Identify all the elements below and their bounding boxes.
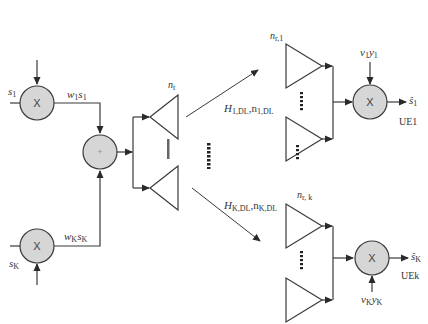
ellipsis-markers xyxy=(167,92,303,269)
input-label-s1: s1 xyxy=(8,86,16,99)
ue-label-ue1: UE1 xyxy=(399,117,417,127)
channel-label-1: H1,DL,n1,DL xyxy=(224,103,274,116)
multiply-symbol-rx-1: X xyxy=(366,97,373,108)
multiply-symbol-tx-1: X xyxy=(33,98,40,109)
sum-node xyxy=(83,135,132,169)
channel-label-k: HK,DL,nK,DL xyxy=(224,200,277,213)
weight-label-v1y1: v1y1 xyxy=(360,47,378,60)
tx-antenna-label-nt: nt xyxy=(168,80,175,92)
mult-rx-k xyxy=(355,241,408,292)
multiply-symbol-tx-k: X xyxy=(33,241,40,252)
channel-arrows xyxy=(186,70,260,241)
multiply-symbol-rx-k: X xyxy=(368,253,375,264)
edge-label-w1s1: w1s1 xyxy=(67,89,87,102)
edge-label-wKsK: wKsK xyxy=(64,231,87,244)
rx-antenna-array-k xyxy=(286,204,353,322)
output-label-s1-hat: ŝ1 xyxy=(409,95,417,108)
input-label-sK: sK xyxy=(9,258,19,271)
sum-symbol: + xyxy=(97,148,102,157)
ue-label-uek: UEk xyxy=(401,271,419,281)
tx-branch xyxy=(133,117,149,188)
mult-tx-k xyxy=(10,171,100,285)
weight-label-vKyK: vKyK xyxy=(361,294,382,307)
tx-antenna-array xyxy=(150,95,178,210)
mult-rx-1 xyxy=(353,62,406,119)
output-label-sK-hat: ŝK xyxy=(411,251,421,264)
rx-antenna-label-nr1: nr,1 xyxy=(270,31,283,43)
rx-antenna-array-1 xyxy=(286,44,352,161)
rx-antenna-label-nrk: nr, k xyxy=(297,190,312,202)
